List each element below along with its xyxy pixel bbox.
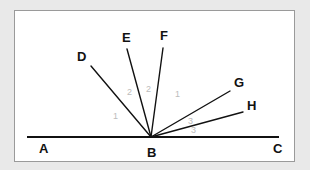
rays-group (91, 48, 243, 137)
angle-label-HBC: 3 (191, 125, 196, 135)
ray-BF (151, 48, 163, 137)
angle-label-DBE: 2 (127, 87, 132, 97)
point-label-A: A (39, 141, 49, 156)
point-label-D: D (77, 49, 86, 64)
diagram-panel: 1 2 2 1 3 3 A B C D E F G H (14, 10, 295, 162)
point-label-G: G (234, 75, 244, 90)
point-label-B: B (147, 145, 156, 160)
point-label-H: H (247, 98, 256, 113)
angle-diagram-svg: 1 2 2 1 3 3 A B C D E F G H (15, 11, 294, 161)
point-label-E: E (122, 30, 131, 45)
angle-label-FBG: 1 (175, 89, 180, 99)
ray-BH (151, 112, 243, 137)
point-label-C: C (273, 141, 283, 156)
angle-label-EBF: 2 (146, 84, 151, 94)
angle-label-ABD: 1 (113, 111, 118, 121)
point-labels-group: A B C D E F G H (39, 28, 283, 160)
point-label-F: F (160, 28, 168, 43)
figure-root: 1 2 2 1 3 3 A B C D E F G H (0, 0, 310, 170)
